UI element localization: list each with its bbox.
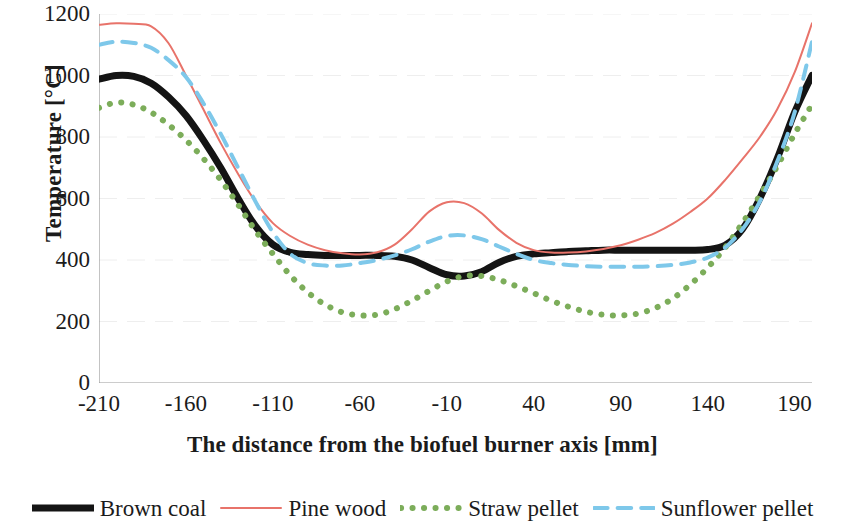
y-tick-label: 200 (18, 310, 90, 333)
x-tick-label: 190 (750, 392, 840, 415)
x-axis-title: The distance from the biofuel burner axi… (0, 432, 845, 458)
y-tick-label: 600 (18, 187, 90, 210)
legend-label: Straw pellet (468, 497, 579, 520)
thick-black-solid-line-icon (32, 501, 94, 515)
legend-label: Sunflower pellet (661, 497, 814, 520)
temperature-distribution-chart: Temperature [°C] 020040060080010001200 -… (0, 0, 845, 532)
thin-red-solid-line-icon (220, 501, 282, 515)
series-line-sunflower-pellet (99, 42, 812, 267)
y-tick-label: 800 (18, 125, 90, 148)
chart-legend: Brown coalPine woodStraw pelletSunflower… (0, 487, 845, 529)
y-tick-label: 400 (18, 248, 90, 271)
legend-item-straw-pellet[interactable]: Straw pellet (393, 497, 586, 520)
blue-dashed-line-icon (593, 501, 655, 515)
y-tick-label: 1000 (18, 64, 90, 87)
plot-area (99, 14, 812, 383)
x-tick-label: 140 (663, 392, 753, 415)
x-tick-label: -160 (141, 392, 231, 415)
y-tick-label: 1200 (18, 2, 90, 25)
x-tick-label: -210 (54, 392, 144, 415)
green-dotted-line-icon (400, 501, 462, 515)
legend-label: Pine wood (288, 497, 386, 520)
x-tick-label: 90 (576, 392, 666, 415)
legend-item-brown-coal[interactable]: Brown coal (25, 497, 214, 520)
x-tick-label: -10 (402, 392, 492, 415)
legend-item-sunflower-pellet[interactable]: Sunflower pellet (586, 497, 821, 520)
x-axis-tick-labels: -210-160-110-60-104090140190 (0, 392, 845, 424)
x-tick-label: 40 (489, 392, 579, 415)
plot-canvas (99, 14, 812, 383)
series-line-straw-pellet (99, 102, 812, 315)
series-line-brown-coal (99, 75, 812, 276)
legend-item-pine-wood[interactable]: Pine wood (213, 497, 393, 520)
legend-label: Brown coal (100, 497, 207, 520)
x-tick-label: -110 (228, 392, 318, 415)
x-tick-label: -60 (315, 392, 405, 415)
